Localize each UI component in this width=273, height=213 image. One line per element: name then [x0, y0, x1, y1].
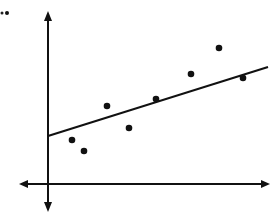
axes	[19, 11, 270, 212]
data-point	[153, 96, 160, 103]
y-axis-up-arrow-icon	[44, 11, 52, 21]
scatter-plot	[0, 0, 273, 213]
data-points	[69, 45, 247, 155]
x-axis-right-arrow-icon	[261, 180, 270, 188]
data-point	[216, 45, 223, 52]
data-point	[126, 125, 133, 132]
data-point	[69, 137, 76, 144]
data-point	[104, 103, 111, 110]
x-axis-left-arrow-icon	[19, 180, 28, 188]
data-point	[240, 75, 247, 82]
data-point	[81, 148, 88, 155]
y-axis-down-arrow-icon	[44, 202, 52, 212]
data-point	[188, 71, 195, 78]
